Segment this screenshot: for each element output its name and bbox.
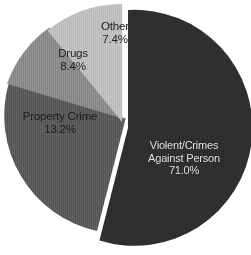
pie-label-name-line-1: Violent/Crimes — [132, 139, 236, 152]
pie-label-name: Property Crime — [8, 110, 112, 123]
pie-chart: Violent/Crimes Against Person 71.0% Prop… — [0, 0, 251, 255]
pie-label-name-line-2: Against Person — [132, 152, 236, 165]
pie-label-percent: 8.4% — [38, 60, 108, 73]
pie-label-percent: 71.0% — [132, 164, 236, 177]
pie-label-violent-crimes-against-person: Violent/Crimes Against Person 71.0% — [132, 139, 236, 177]
pie-label-name: Other — [84, 20, 146, 33]
pie-label-percent: 7.4% — [84, 33, 146, 46]
pie-label-property-crime: Property Crime 13.2% — [8, 110, 112, 136]
pie-label-drugs: Drugs 8.4% — [38, 47, 108, 73]
pie-label-name: Drugs — [38, 47, 108, 60]
pie-label-other: Other 7.4% — [84, 20, 146, 46]
pie-label-percent: 13.2% — [8, 123, 112, 136]
